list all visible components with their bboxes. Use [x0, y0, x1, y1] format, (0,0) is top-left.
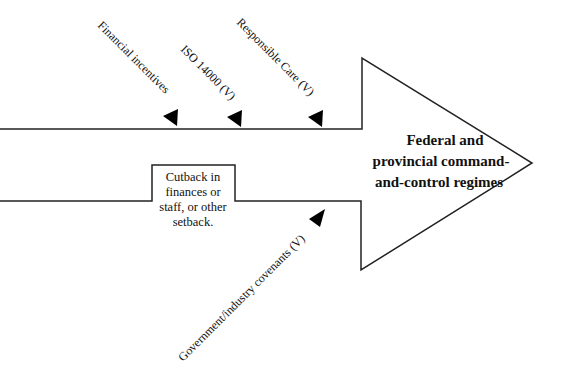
factor-government-industry-covenants: Government/industry covenants (V): [175, 209, 325, 364]
main-label-line-1: Federal and: [406, 132, 484, 148]
arrowhead-icon: [309, 209, 325, 227]
setback-line-3: staff, or other: [159, 200, 227, 214]
setback-line-4: setback.: [173, 215, 214, 229]
setback-line-2: finances or: [165, 185, 221, 199]
main-label-line-3: and-control regimes: [375, 174, 503, 190]
arrowhead-icon: [308, 110, 323, 127]
factor-label: Government/industry covenants (V): [175, 232, 307, 364]
factor-responsible-care: Responsible Care (V): [234, 15, 323, 127]
arrowhead-icon: [163, 109, 178, 126]
main-label-line-2: provincial command-: [373, 153, 510, 169]
factor-label: ISO 14000 (V): [178, 42, 239, 103]
factor-label: Financial incentives: [95, 18, 173, 96]
setback-line-1: Cutback in: [166, 170, 221, 184]
arrowhead-icon: [227, 110, 242, 127]
force-field-diagram: Federal and provincial command- and-cont…: [0, 0, 561, 388]
factor-financial-incentives: Financial incentives: [95, 18, 178, 126]
factor-iso-14000: ISO 14000 (V): [178, 42, 242, 127]
main-arrow-label: Federal and provincial command- and-cont…: [373, 132, 510, 190]
setback-box-label: Cutback in finances or staff, or other s…: [159, 170, 227, 229]
factor-label: Responsible Care (V): [234, 15, 317, 98]
